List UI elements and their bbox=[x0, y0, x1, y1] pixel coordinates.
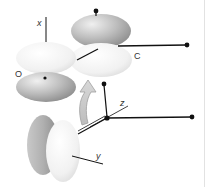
carbon-right-dot bbox=[185, 43, 190, 48]
orbital-diagram: x O C z y bbox=[0, 0, 207, 187]
carbon-label: C bbox=[134, 52, 141, 61]
oxygen-nucleus-dot bbox=[43, 76, 46, 79]
oxygen-lower-lobe bbox=[16, 72, 76, 102]
junction-right-bond bbox=[107, 117, 192, 118]
carbon-lower-lobe bbox=[70, 43, 132, 77]
junction-dot bbox=[104, 115, 109, 120]
carbon-right-bond bbox=[118, 45, 186, 46]
y-axis-label: y bbox=[96, 152, 101, 161]
z-axis-label: z bbox=[120, 99, 125, 108]
junction-right-dot bbox=[190, 115, 195, 120]
oxygen-upper-lobe bbox=[16, 42, 76, 74]
carbon-top-dot bbox=[94, 9, 99, 14]
lower-front-lobe bbox=[46, 120, 80, 182]
junction-up-dot bbox=[102, 82, 107, 87]
oxygen-label: O bbox=[15, 70, 22, 79]
carbon-upper-lobe bbox=[71, 14, 131, 48]
curved-arrow-icon bbox=[80, 80, 96, 125]
junction-up-bond bbox=[104, 85, 107, 117]
right-border bbox=[204, 0, 205, 187]
orbital-diagram-svg bbox=[0, 0, 207, 187]
x-axis-label: x bbox=[37, 19, 42, 28]
